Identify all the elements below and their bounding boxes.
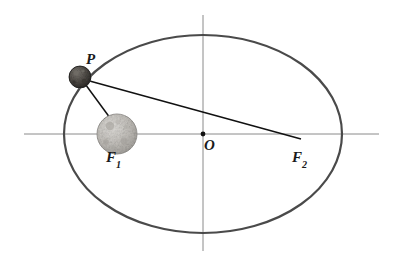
label-point-p: P (86, 52, 95, 67)
label-focus-2-base: F (292, 149, 302, 165)
orbit-diagram-svg (0, 0, 402, 268)
label-center-o: O (204, 138, 215, 153)
label-focus-2: F2 (292, 150, 307, 168)
body-f1-moon (97, 114, 137, 154)
label-focus-1-base: F (106, 149, 116, 165)
body-p-asteroid (69, 66, 91, 88)
figure-canvas: P O F1 F2 (0, 0, 402, 268)
label-focus-1-subscript: 1 (116, 159, 121, 170)
center-point-dot (201, 132, 206, 137)
label-focus-1: F1 (106, 150, 121, 168)
label-focus-2-subscript: 2 (302, 159, 307, 170)
